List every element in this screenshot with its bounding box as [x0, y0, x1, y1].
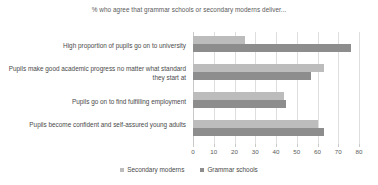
x-tick-mark — [338, 144, 339, 147]
x-tick-label: 80 — [356, 148, 363, 155]
x-tick-label: 10 — [210, 148, 217, 155]
x-tick-mark — [297, 144, 298, 147]
x-tick-mark — [255, 144, 256, 147]
x-tick-mark — [235, 144, 236, 147]
bar-group — [193, 60, 359, 88]
x-tick-mark — [214, 144, 215, 147]
bar-group — [193, 88, 359, 116]
bar-chart: % who agree that grammar schools or seco… — [0, 0, 378, 185]
x-tick-mark — [193, 144, 194, 147]
legend-label: Secondary moderns — [127, 166, 184, 173]
category-axis-labels: High proportion of pupils go on to unive… — [0, 32, 190, 144]
category-label: Pupils become confident and self-assured… — [0, 121, 186, 130]
x-tick-label: 70 — [335, 148, 342, 155]
legend-item[interactable]: Secondary moderns — [120, 166, 184, 173]
category-label: High proportion of pupils go on to unive… — [0, 42, 186, 51]
legend-item[interactable]: Grammar schools — [200, 166, 257, 173]
chart-title: % who agree that grammar schools or seco… — [0, 6, 378, 13]
x-tick-label: 40 — [273, 148, 280, 155]
x-tick-label: 50 — [293, 148, 300, 155]
x-tick-label: 60 — [314, 148, 321, 155]
gridline — [359, 32, 360, 144]
bar-groups — [193, 32, 359, 144]
legend-swatch-icon — [120, 168, 124, 172]
x-axis: 01020304050607080 — [193, 144, 359, 160]
bar-secondary-moderns — [193, 120, 318, 128]
legend-label: Grammar schools — [207, 166, 257, 173]
bar-grammar-schools — [193, 100, 286, 108]
x-tick-label: 0 — [191, 148, 194, 155]
category-label: Pupils go on to find fulfilling employme… — [0, 98, 186, 107]
x-tick-label: 20 — [231, 148, 238, 155]
x-tick-mark — [318, 144, 319, 147]
chart-legend: Secondary modernsGrammar schools — [0, 166, 378, 173]
x-tick-mark — [359, 144, 360, 147]
bar-secondary-moderns — [193, 64, 324, 72]
bar-grammar-schools — [193, 128, 324, 136]
category-label: Pupils make good academic progress no ma… — [0, 65, 186, 82]
x-tick-mark — [276, 144, 277, 147]
bar-secondary-moderns — [193, 92, 284, 100]
legend-swatch-icon — [200, 168, 204, 172]
bar-secondary-moderns — [193, 36, 245, 44]
bar-group — [193, 116, 359, 144]
x-tick-label: 30 — [252, 148, 259, 155]
bar-grammar-schools — [193, 44, 351, 52]
bar-group — [193, 32, 359, 60]
bar-grammar-schools — [193, 72, 311, 80]
plot-area — [193, 32, 359, 144]
